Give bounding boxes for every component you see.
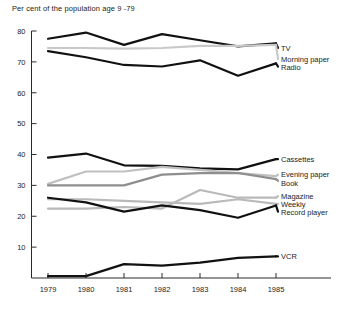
series-label-tv: TV bbox=[281, 44, 291, 53]
x-axis-tick-label: 1985 bbox=[268, 285, 285, 294]
series-label-vcr: VCR bbox=[281, 252, 297, 261]
series-line-book bbox=[48, 173, 276, 185]
series-lines bbox=[48, 33, 278, 277]
y-axis-tick-label: 70 bbox=[17, 58, 25, 67]
series-leader-magazine bbox=[276, 196, 278, 198]
series-line-morning-paper bbox=[48, 45, 276, 49]
x-axis-tick-label: 1979 bbox=[40, 285, 57, 294]
y-axis-tick-label: 50 bbox=[17, 119, 25, 128]
series-leader-radio bbox=[276, 63, 278, 66]
series-label-cassettes: Cassettes bbox=[281, 155, 315, 164]
y-axis-tick-label: 40 bbox=[17, 150, 25, 159]
x-axis-tick-label: 1983 bbox=[192, 285, 209, 294]
series-line-radio bbox=[48, 51, 276, 76]
y-axis: 1020304050607080 bbox=[17, 27, 36, 278]
y-axis-tick-label: 30 bbox=[17, 181, 25, 190]
series-labels: TVMorning paperRadioCassettesEvening pap… bbox=[281, 44, 330, 261]
series-label-radio: Radio bbox=[281, 63, 301, 72]
x-axis-tick-label: 1982 bbox=[154, 285, 171, 294]
plot-area: 1020304050607080 19791980198119821983198… bbox=[0, 0, 339, 335]
x-axis-tick-label: 1980 bbox=[78, 285, 95, 294]
y-axis-tick-label: 60 bbox=[17, 89, 25, 98]
x-axis-tick-label: 1984 bbox=[230, 285, 247, 294]
series-leader-evening-paper bbox=[276, 175, 278, 177]
series-leader-book bbox=[276, 179, 278, 181]
y-axis-tick-label: 10 bbox=[17, 243, 25, 252]
y-axis-tick-label: 80 bbox=[17, 27, 25, 36]
y-axis-tick-label: 20 bbox=[17, 212, 25, 221]
series-leader-record-player bbox=[276, 205, 278, 211]
series-label-book: Book bbox=[281, 179, 298, 188]
series-label-record-player: Record player bbox=[281, 208, 328, 217]
line-chart: Per cent of the population age 9 -79 102… bbox=[0, 0, 339, 335]
x-axis-tick-label: 1981 bbox=[116, 285, 133, 294]
series-line-tv bbox=[48, 33, 276, 47]
